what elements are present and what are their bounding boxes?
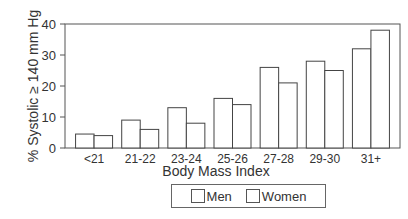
x-tick-label: 21-22 xyxy=(125,152,156,166)
bar-men xyxy=(76,134,95,148)
men-swatch-icon xyxy=(191,189,205,203)
y-tick-label: 20 xyxy=(42,79,56,94)
legend-label-men: Men xyxy=(207,189,232,204)
bar-women xyxy=(325,71,344,149)
bar-men xyxy=(352,49,371,148)
bar-chart: 010203040<2121-2223-2425-2627-2829-3031+… xyxy=(0,0,408,180)
bar-women xyxy=(279,83,298,148)
bar-women xyxy=(94,136,113,148)
y-axis-label: % Systolic ≥ 140 mm Hg xyxy=(25,10,41,162)
bar-men xyxy=(306,61,325,148)
bar-men xyxy=(168,108,187,148)
bar-women xyxy=(233,105,252,148)
legend-item-women: Women xyxy=(246,189,307,204)
x-axis-label: Body Mass Index xyxy=(162,163,269,179)
legend-item-men: Men xyxy=(191,189,232,204)
bar-women xyxy=(140,129,159,148)
legend: Men Women xyxy=(171,184,326,208)
y-tick-label: 40 xyxy=(42,17,56,32)
y-tick-label: 10 xyxy=(42,110,56,125)
x-tick-label: <21 xyxy=(84,152,105,166)
bar-women xyxy=(371,30,390,148)
y-tick-label: 30 xyxy=(42,48,56,63)
women-swatch-icon xyxy=(246,189,260,203)
bar-women xyxy=(186,123,205,148)
bar-men xyxy=(122,120,141,148)
y-tick-label: 0 xyxy=(49,141,56,156)
x-tick-label: 29-30 xyxy=(309,152,340,166)
x-tick-label: 31+ xyxy=(361,152,381,166)
legend-label-women: Women xyxy=(262,189,307,204)
bar-men xyxy=(260,67,279,148)
bar-men xyxy=(214,98,233,148)
